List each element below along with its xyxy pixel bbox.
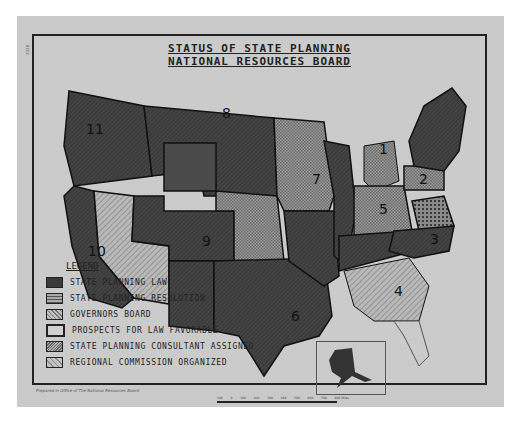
- region-upper-midwest: [274, 118, 334, 211]
- scale-labels: 100 0 100 200 300 400 500 600 700 800 Mi…: [217, 396, 349, 400]
- region-wyoming: [164, 143, 216, 191]
- swatch-diagonal-icon: [46, 309, 63, 320]
- region-virginia: [412, 196, 454, 231]
- region-label-1: 1: [379, 141, 388, 157]
- region-label-9: 9: [202, 233, 211, 249]
- legend-item-resolution: STATE PLANNING RESOLUTION: [46, 290, 266, 306]
- region-northeast: [409, 88, 466, 171]
- region-florida: [394, 321, 429, 366]
- legend-item-law: STATE PLANNING LAW: [46, 274, 266, 290]
- swatch-outline-icon: [46, 324, 65, 337]
- legend-title: LEGEND: [66, 261, 266, 271]
- footer-credit: Prepared in Office of The National Resou…: [36, 388, 139, 393]
- legend-item-regional: REGIONAL COMMISSION ORGANIZED: [46, 354, 266, 370]
- region-label-10: 10: [88, 243, 106, 259]
- map-frame: 3338 STATUS OF STATE PLANNING NATIONAL R…: [32, 34, 487, 385]
- swatch-dark-icon: [46, 277, 63, 288]
- region-label-8: 8: [222, 105, 231, 121]
- scale-line: [217, 401, 337, 403]
- alaska-inset: [316, 341, 386, 395]
- region-northwest: [64, 91, 152, 186]
- alaska-shape: [317, 342, 385, 394]
- region-label-11: 11: [86, 121, 104, 137]
- legend-item-consultant: STATE PLANNING CONSULTANT ASSIGNED: [46, 338, 266, 354]
- scale-bar: 100 0 100 200 300 400 500 600 700 800 Mi…: [217, 396, 337, 404]
- region-label-2: 2: [419, 171, 428, 187]
- swatch-dense-diagonal-icon: [46, 341, 63, 352]
- legend-item-prospects: PROSPECTS FOR LAW FAVORABLE: [46, 322, 266, 338]
- swatch-crosshatch-icon: [46, 293, 63, 304]
- region-southeast: [344, 258, 429, 321]
- region-label-3: 3: [430, 231, 439, 247]
- side-code: 3338: [25, 45, 30, 55]
- region-label-4: 4: [394, 283, 403, 299]
- region-label-6: 6: [291, 308, 300, 324]
- region-label-7: 7: [312, 171, 321, 187]
- legend: LEGEND STATE PLANNING LAW STATE PLANNING…: [46, 261, 266, 370]
- region-carolina: [389, 226, 454, 258]
- legend-item-governors: GOVERNORS BOARD: [46, 306, 266, 322]
- map-sheet: 3338 STATUS OF STATE PLANNING NATIONAL R…: [17, 16, 504, 407]
- swatch-wide-diagonal-icon: [46, 357, 63, 368]
- region-label-5: 5: [379, 201, 388, 217]
